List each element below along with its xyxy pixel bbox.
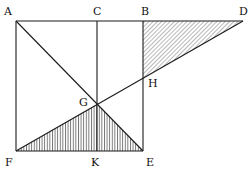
- label-a: A: [4, 6, 12, 17]
- shaded-triangle-fge: [16, 104, 143, 151]
- label-d: D: [239, 6, 248, 17]
- diagram-canvas: [0, 0, 249, 178]
- label-f: F: [5, 157, 13, 168]
- label-c: C: [93, 6, 101, 17]
- label-b: B: [141, 6, 149, 17]
- segment-fd: [16, 21, 243, 151]
- label-g: G: [79, 97, 88, 108]
- label-h: H: [148, 78, 158, 89]
- label-e: E: [146, 157, 154, 168]
- geometry-diagram: A C B D H G F K E: [0, 0, 249, 178]
- label-k: K: [91, 157, 99, 168]
